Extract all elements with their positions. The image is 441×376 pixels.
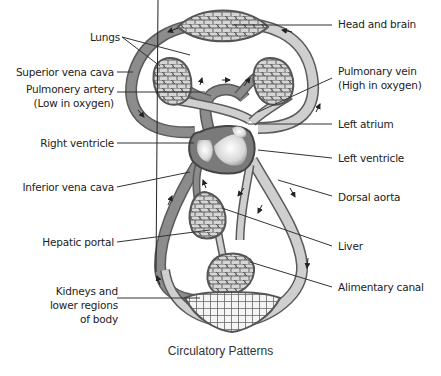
alimentary-canal <box>207 254 254 295</box>
label-kidneys: Kidneys and <box>56 285 118 298</box>
label-left-atrium: Left atrium <box>338 118 394 131</box>
figure-caption: Circulatory Patterns <box>0 344 441 358</box>
label-pulmonary-artery-note: (Low in oxygen) <box>34 97 114 110</box>
label-kidneys-3: of body <box>80 313 118 326</box>
label-liver: Liver <box>338 240 363 253</box>
label-pulmonary-artery: Pulmonery artery <box>26 83 114 96</box>
label-right-ventricle: Right ventricle <box>40 137 114 150</box>
label-superior-vena-cava: Superior vena cava <box>16 66 114 79</box>
label-kidneys-2: lower regions <box>50 299 118 312</box>
label-pulmonary-vein-note: (High in oxygen) <box>338 79 422 92</box>
label-dorsal-aorta: Dorsal aorta <box>338 191 400 204</box>
label-head-and-brain: Head and brain <box>338 18 416 31</box>
right-lung <box>253 58 293 105</box>
label-hepatic-portal: Hepatic portal <box>42 236 114 249</box>
label-pulmonary-vein: Pulmonary vein <box>338 65 417 78</box>
head-capillary-bed <box>178 11 268 42</box>
label-lungs: Lungs <box>90 31 120 44</box>
label-left-ventricle: Left ventricle <box>338 152 404 165</box>
label-alimentary-canal: Alimentary canal <box>338 281 424 294</box>
label-inferior-vena-cava: Inferior vena cava <box>22 181 114 194</box>
heart <box>189 126 254 174</box>
